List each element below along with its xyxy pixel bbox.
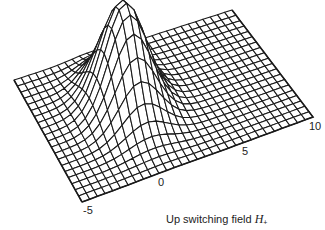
x-axis-label-text: Up switching field — [166, 213, 255, 225]
x-axis-label-subscript: + — [263, 219, 267, 226]
x-tick-label: 5 — [242, 146, 248, 157]
x-tick-label: 10 — [309, 121, 321, 132]
wireframe-mesh — [14, 0, 313, 202]
x-tick-label: 0 — [158, 177, 164, 188]
x-tick-label: -5 — [83, 205, 93, 216]
surface-plot — [0, 0, 325, 230]
x-axis-label: Up switching field H+ — [166, 213, 267, 226]
